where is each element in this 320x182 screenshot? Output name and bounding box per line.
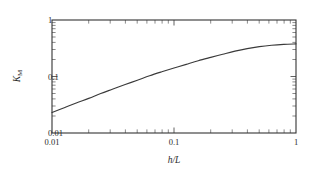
y-axis-title-base: K (12, 76, 22, 82)
x-axis-title: h/L (168, 156, 181, 166)
log-log-plot (0, 0, 320, 182)
ytick-label-0.01: 0.01 (48, 129, 63, 138)
xtick-label-0.1: 0.1 (169, 138, 180, 147)
xtick-label-1: 1 (294, 138, 298, 147)
ytick-label-0.1: 0.1 (48, 72, 59, 81)
y-axis-title: KM (13, 70, 23, 83)
y-axis-title-subscript: M (16, 70, 24, 76)
figure-canvas: 0.01 0.1 1 1 0.1 0.01 h/L KM (0, 0, 320, 182)
xtick-label-0.01: 0.01 (45, 138, 60, 147)
plot-area-background (52, 20, 296, 133)
